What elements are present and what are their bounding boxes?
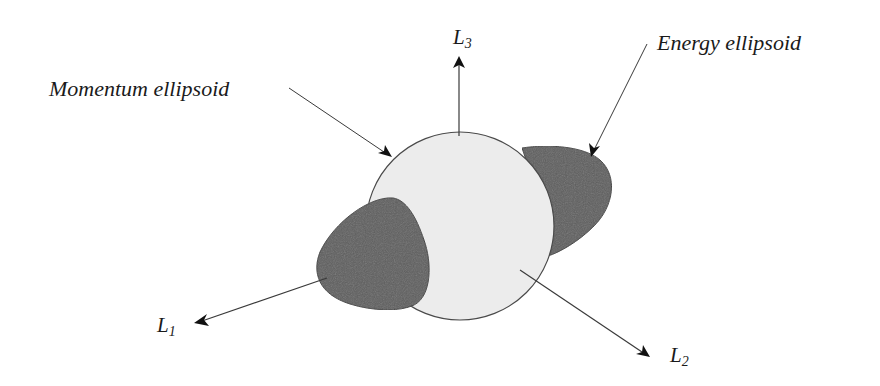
ellipsoid-diagram: Momentum ellipsoid Energy ellipsoid L3 L… bbox=[0, 0, 880, 386]
momentum-leader-line bbox=[289, 88, 384, 152]
axis-l2-label: L2 bbox=[669, 343, 689, 369]
axis-l2-line bbox=[520, 270, 642, 352]
energy-ellipsoid-label: Energy ellipsoid bbox=[656, 30, 802, 55]
momentum-ellipsoid-label: Momentum ellipsoid bbox=[48, 76, 230, 101]
energy-leader-line bbox=[594, 44, 647, 150]
axis-l2-arrowhead-icon bbox=[636, 345, 650, 357]
axis-l1-line bbox=[202, 278, 327, 321]
energy-ellipsoid-left-lobe bbox=[317, 198, 429, 310]
axis-l1-label: L1 bbox=[156, 313, 176, 339]
momentum-leader-arrowhead-icon bbox=[378, 145, 392, 157]
axis-l3-label: L3 bbox=[452, 25, 472, 51]
diagram-canvas: Momentum ellipsoid Energy ellipsoid L3 L… bbox=[0, 0, 880, 386]
